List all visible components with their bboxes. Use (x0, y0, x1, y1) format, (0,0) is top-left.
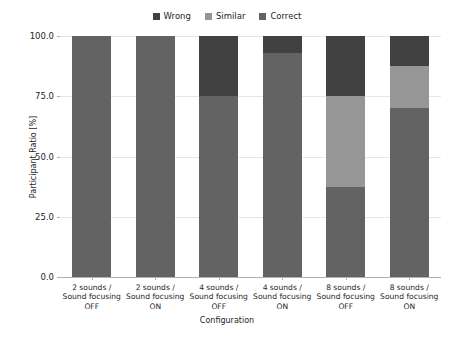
x-tick-label: 2 sounds /Sound focusingOFF (63, 283, 121, 311)
x-tick-label: 8 sounds /Sound focusingON (380, 283, 438, 311)
x-tick-label-line: 2 sounds / (63, 283, 121, 292)
x-axis-line (60, 277, 441, 278)
x-tick-mark (219, 277, 220, 280)
legend-label: Wrong (164, 12, 191, 21)
bar-segment-correct[interactable] (390, 108, 429, 277)
chart-legend: WrongSimilarCorrect (0, 12, 454, 21)
legend-swatch-icon (259, 13, 266, 20)
legend-item-similar: Similar (205, 12, 245, 21)
x-tick-label: 8 sounds /Sound focusingOFF (317, 283, 375, 311)
x-tick-mark (409, 277, 410, 280)
bar-stack[interactable] (390, 36, 429, 277)
x-tick-label-line: OFF (190, 302, 248, 311)
x-tick-label-line: 2 sounds / (126, 283, 184, 292)
x-tick-label: 2 sounds /Sound focusingON (126, 283, 184, 311)
y-tick-label: 25.0 (8, 213, 54, 222)
legend-label: Similar (216, 12, 245, 21)
bar-segment-correct[interactable] (326, 187, 365, 277)
y-tick-label: 50.0 (8, 152, 54, 161)
bar-segment-correct[interactable] (199, 96, 238, 277)
chart-figure: WrongSimilarCorrect Participant Ratio [%… (0, 0, 454, 345)
legend-swatch-icon (153, 13, 160, 20)
y-tick-label: 100.0 (8, 32, 54, 41)
bar-segment-wrong[interactable] (263, 36, 302, 53)
bar-stack[interactable] (136, 36, 175, 277)
bar-stack[interactable] (326, 36, 365, 277)
bar-segment-correct[interactable] (136, 36, 175, 277)
x-tick-label-line: Sound focusing (317, 292, 375, 301)
x-tick-mark (346, 277, 347, 280)
bar-stack[interactable] (263, 36, 302, 277)
bar-segment-wrong[interactable] (326, 36, 365, 96)
x-tick-label-line: Sound focusing (380, 292, 438, 301)
x-tick-mark (155, 277, 156, 280)
bar-segment-correct[interactable] (72, 36, 111, 277)
legend-swatch-icon (205, 13, 212, 20)
bar-series-group (60, 36, 441, 277)
bar-segment-similar[interactable] (390, 66, 429, 108)
legend-item-wrong: Wrong (153, 12, 191, 21)
x-tick-label-line: 4 sounds / (190, 283, 248, 292)
bar-segment-wrong[interactable] (390, 36, 429, 66)
x-tick-mark (282, 277, 283, 280)
bar-segment-correct[interactable] (263, 53, 302, 277)
plot-area (60, 36, 441, 277)
y-tick-label: 0.0 (8, 273, 54, 282)
x-tick-label: 4 sounds /Sound focusingON (253, 283, 311, 311)
x-tick-label-line: Sound focusing (190, 292, 248, 301)
x-tick-label: 4 sounds /Sound focusingOFF (190, 283, 248, 311)
bar-segment-wrong[interactable] (199, 36, 238, 96)
x-tick-label-line: Sound focusing (126, 292, 184, 301)
x-axis-label: Configuration (0, 316, 454, 325)
x-tick-label-line: OFF (317, 302, 375, 311)
x-tick-label-line: 4 sounds / (253, 283, 311, 292)
x-tick-label-line: ON (126, 302, 184, 311)
x-tick-mark (92, 277, 93, 280)
legend-item-correct: Correct (259, 12, 301, 21)
x-tick-label-line: OFF (63, 302, 121, 311)
legend-label: Correct (270, 12, 301, 21)
bar-stack[interactable] (199, 36, 238, 277)
bar-segment-similar[interactable] (326, 96, 365, 186)
x-tick-label-line: 8 sounds / (380, 283, 438, 292)
x-tick-label-line: Sound focusing (63, 292, 121, 301)
x-tick-label-line: Sound focusing (253, 292, 311, 301)
x-tick-label-line: 8 sounds / (317, 283, 375, 292)
bar-stack[interactable] (72, 36, 111, 277)
y-tick-label: 75.0 (8, 92, 54, 101)
x-tick-label-line: ON (380, 302, 438, 311)
x-tick-label-line: ON (253, 302, 311, 311)
